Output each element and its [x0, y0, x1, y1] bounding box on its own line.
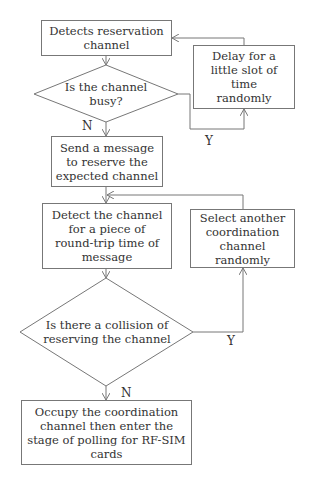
process-occupy: Occupy the coordination channel then ent…	[21, 400, 192, 465]
decision-text-collision: Is there a collision of reserving the ch…	[36, 316, 178, 348]
edge-label-busy-yes: Y	[205, 134, 213, 148]
edge-label-collision-yes: Y	[227, 334, 235, 348]
edge-label-busy-no: N	[82, 119, 93, 133]
process-select-another: Select another coordination channel rand…	[190, 209, 295, 268]
process-send-message: Send a message to reserve the expected c…	[51, 136, 163, 187]
process-detect-rtt: Detect the channel for a piece of round-…	[42, 203, 172, 269]
process-detect-reservation: Detects reservation channel	[41, 20, 172, 56]
process-delay: Delay for a little slot of time randomly	[193, 45, 295, 109]
edge-label-collision-no: N	[121, 386, 132, 400]
decision-text-busy: Is the channel busy?	[56, 79, 156, 109]
